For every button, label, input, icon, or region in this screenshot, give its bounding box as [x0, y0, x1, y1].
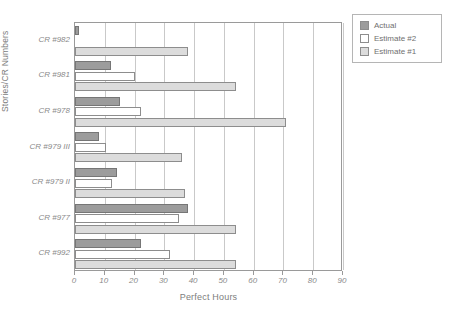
- x-tick: [163, 271, 164, 275]
- bar-actual: [75, 61, 111, 70]
- x-tick: [282, 271, 283, 275]
- y-tick-label: CR #992: [38, 248, 70, 257]
- x-tick: [104, 271, 105, 275]
- y-axis-tick-labels: CR #982CR #981CR #978CR #979 IIICR #979 …: [0, 22, 70, 271]
- bar-estimate-2: [75, 214, 179, 223]
- chart-legend: ActualEstimate #2Estimate #1: [352, 14, 442, 63]
- x-tick-label: 30: [159, 276, 168, 285]
- bar-actual: [75, 132, 99, 141]
- bar-group: [75, 94, 341, 130]
- bar-chart: Stories/CR Numbers CR #982CR #981CR #978…: [0, 0, 451, 314]
- bar-group: [75, 201, 341, 237]
- bar-estimate-1: [75, 153, 182, 162]
- x-tick-label: 50: [218, 276, 227, 285]
- legend-swatch-icon: [360, 47, 369, 56]
- bar-actual: [75, 97, 120, 106]
- x-tick-label: 70: [278, 276, 287, 285]
- bar-actual: [75, 204, 188, 213]
- bar-actual: [75, 168, 117, 177]
- bar-estimate-1: [75, 82, 236, 91]
- legend-swatch-icon: [360, 34, 369, 43]
- bar-estimate-1: [75, 225, 236, 234]
- bar-actual: [75, 239, 141, 248]
- x-tick-label: 20: [129, 276, 138, 285]
- x-tick: [223, 271, 224, 275]
- x-tick-label: 0: [72, 276, 76, 285]
- x-tick: [134, 271, 135, 275]
- legend-item: Actual: [360, 21, 435, 30]
- plot-area: [74, 22, 342, 271]
- legend-item: Estimate #2: [360, 34, 435, 43]
- bar-estimate-2: [75, 72, 135, 81]
- x-tick-label: 60: [248, 276, 257, 285]
- bar-group: [75, 23, 341, 59]
- x-tick-label: 90: [338, 276, 347, 285]
- legend-label: Estimate #1: [374, 47, 416, 56]
- y-tick-label: CR #977: [38, 213, 70, 222]
- legend-label: Estimate #2: [374, 34, 416, 43]
- legend-label: Actual: [374, 21, 396, 30]
- bar-group: [75, 236, 341, 272]
- bar-estimate-1: [75, 189, 185, 198]
- bar-estimate-1: [75, 260, 236, 269]
- bar-estimate-1: [75, 118, 286, 127]
- bar-actual: [75, 26, 79, 35]
- x-tick: [74, 271, 75, 275]
- bar-estimate-2: [75, 179, 112, 188]
- bar-estimate-2: [75, 107, 141, 116]
- bar-group: [75, 130, 341, 166]
- y-tick-label: CR #979 II: [32, 177, 70, 186]
- y-tick-label: CR #982: [38, 35, 70, 44]
- x-tick: [193, 271, 194, 275]
- y-tick-label: CR #979 III: [30, 142, 70, 151]
- y-tick-label: CR #981: [38, 70, 70, 79]
- bar-group: [75, 165, 341, 201]
- x-tick-label: 10: [99, 276, 108, 285]
- legend-swatch-icon: [360, 21, 369, 30]
- x-tick-label: 40: [189, 276, 198, 285]
- x-tick: [342, 271, 343, 275]
- x-axis: 0102030405060708090: [74, 271, 343, 293]
- x-tick: [312, 271, 313, 275]
- bar-estimate-2: [75, 143, 106, 152]
- gridline: [343, 23, 344, 270]
- y-tick-label: CR #978: [38, 106, 70, 115]
- legend-item: Estimate #1: [360, 47, 435, 56]
- bar-estimate-1: [75, 47, 188, 56]
- x-tick-label: 80: [308, 276, 317, 285]
- bar-estimate-2: [75, 250, 170, 259]
- bar-group: [75, 59, 341, 95]
- x-axis-title: Perfect Hours: [74, 292, 343, 302]
- x-tick: [253, 271, 254, 275]
